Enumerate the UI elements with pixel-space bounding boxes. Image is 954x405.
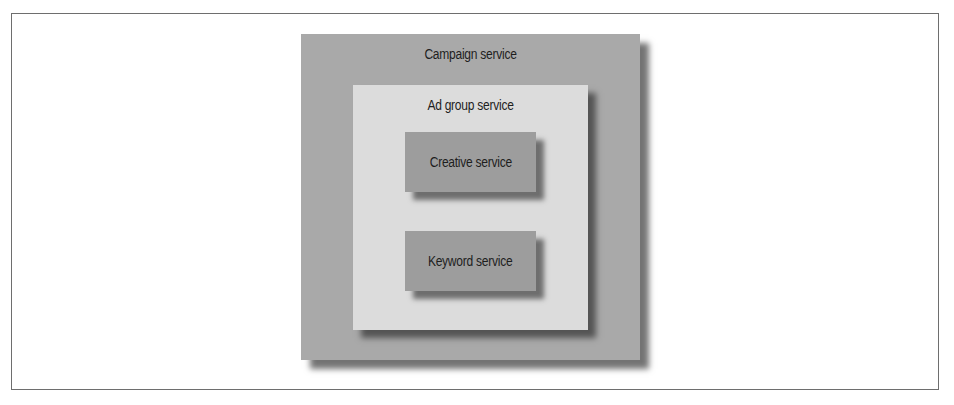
creative-service-box: Creative service: [405, 132, 536, 192]
campaign-service-label: Campaign service: [325, 46, 617, 62]
ad-group-service-box: [353, 85, 588, 330]
keyword-service-box: Keyword service: [405, 231, 536, 291]
ad-group-service-label: Ad group service: [369, 97, 571, 113]
creative-service-label: Creative service: [429, 154, 511, 170]
keyword-service-label: Keyword service: [428, 253, 512, 269]
